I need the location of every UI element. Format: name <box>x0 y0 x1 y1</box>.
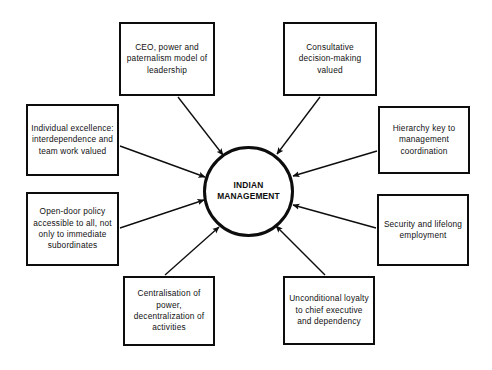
node-security-lifelong-employment[interactable]: Security and lifelong employment <box>377 194 469 266</box>
arrow-centralisation-of-power <box>165 227 219 275</box>
node-open-door-policy[interactable]: Open-door policy accessible to all, not … <box>26 192 119 266</box>
hub-label-line1: INDIAN <box>234 180 264 190</box>
node-centralisation-of-power[interactable]: Centralisation of power, decentralizatio… <box>123 276 215 346</box>
arrow-ceo-power-paternalism <box>178 97 223 155</box>
node-label: Unconditional loyalty to chief executive… <box>285 293 373 327</box>
node-unconditional-loyalty[interactable]: Unconditional loyalty to chief executive… <box>283 276 375 345</box>
node-label: Security and lifelong employment <box>379 219 467 242</box>
arrow-open-door-policy <box>120 200 204 228</box>
node-hierarchy-key[interactable]: Hierarchy key to management coordination <box>378 106 470 174</box>
node-label: Open-door policy accessible to all, not … <box>28 206 117 252</box>
node-label: CEO, power and paternalism model of lead… <box>121 42 213 76</box>
diagram-canvas: CEO, power and paternalism model of lead… <box>0 0 492 370</box>
node-label: Hierarchy key to management coordination <box>380 123 468 157</box>
node-ceo-power-paternalism[interactable]: CEO, power and paternalism model of lead… <box>119 22 215 96</box>
arrow-hierarchy-key <box>293 151 377 176</box>
node-label: Consultative decision-making valued <box>285 42 375 76</box>
node-consultative-decision-making[interactable]: Consultative decision-making valued <box>283 22 377 96</box>
arrow-consultative-decision-making <box>277 97 320 154</box>
node-label: Individual excellence: interdependence a… <box>28 123 117 157</box>
node-individual-excellence[interactable]: Individual excellence: interdependence a… <box>26 104 119 176</box>
hub-indian-management[interactable]: INDIAN MANAGEMENT <box>203 146 294 237</box>
hub-label: INDIAN MANAGEMENT <box>217 180 280 202</box>
arrow-security-lifelong-employment <box>293 205 376 228</box>
hub-label-line2: MANAGEMENT <box>217 191 280 201</box>
arrow-individual-excellence <box>120 146 205 177</box>
arrow-unconditional-loyalty <box>276 226 325 275</box>
node-label: Centralisation of power, decentralizatio… <box>125 288 213 334</box>
